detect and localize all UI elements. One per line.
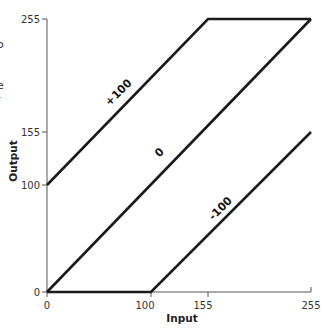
x-axis-title: Input: [166, 312, 197, 324]
y-tick-label: 0: [34, 287, 40, 298]
line-label-zero: 0: [152, 145, 167, 160]
y-tick-label: 255: [21, 14, 40, 25]
y-axis-title: Output: [7, 140, 19, 181]
x-tick-label: 100: [135, 300, 154, 311]
line-label-minus-100: -100: [206, 194, 235, 223]
line-label-plus-100: +100: [103, 76, 135, 108]
edge-text-fragment: -: [0, 90, 1, 103]
y-tick-label: 155: [21, 127, 40, 138]
edge-text-fragment: o: [0, 38, 4, 51]
brightness-offset-chart: o e - 255 155 100 0 0 100 155 255 Input …: [0, 0, 324, 335]
series-plus-100-line: [47, 19, 311, 185]
x-tick-label: 255: [301, 300, 320, 311]
y-tick-label: 100: [21, 180, 40, 191]
series-zero-line: [47, 19, 311, 292]
x-tick-label: 155: [193, 300, 212, 311]
x-tick-label: 0: [44, 300, 50, 311]
